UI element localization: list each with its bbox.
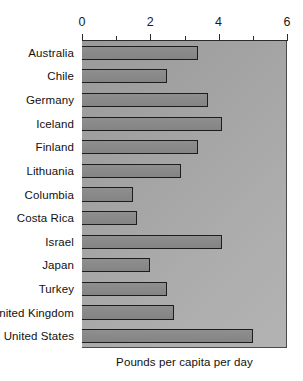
bar-united-kingdom [82, 305, 174, 319]
bar-turkey [82, 282, 167, 296]
bar-row [82, 183, 286, 207]
bar-japan [82, 258, 150, 272]
x-axis-title: Pounds per capita per day [82, 356, 287, 368]
bar-row [82, 159, 286, 183]
bar-row [82, 41, 286, 65]
x-tick-label-4: 4 [215, 15, 222, 29]
bar-row [82, 230, 286, 254]
bar-finland [82, 140, 198, 154]
bar-columbia [82, 187, 133, 201]
x-tick-2 [150, 34, 151, 41]
category-label-japan: Japan [42, 259, 74, 271]
category-label-australia: Australia [28, 47, 74, 59]
bar-costa-rica [82, 211, 137, 225]
category-axis-labels: AustraliaChileGermanyIcelandFinlandLithu… [0, 41, 78, 348]
bar-row [82, 277, 286, 301]
bar-row [82, 135, 286, 159]
bar-rows [82, 41, 286, 347]
bar-chile [82, 69, 167, 83]
x-tick-0 [82, 34, 83, 41]
category-label-united-states: United States [4, 330, 74, 342]
bar-row [82, 206, 286, 230]
category-label-israel: Israel [45, 236, 74, 248]
category-label-germany: Germany [26, 94, 74, 106]
bar-iceland [82, 117, 222, 131]
category-label-costa-rica: Costa Rica [17, 212, 74, 224]
bar-row [82, 253, 286, 277]
x-tick-4 [219, 34, 220, 41]
bar-row [82, 112, 286, 136]
category-label-united-kingdom: United Kingdom [0, 307, 74, 319]
bar-lithuania [82, 164, 181, 178]
category-label-turkey: Turkey [39, 283, 74, 295]
category-label-iceland: Iceland [36, 118, 74, 130]
x-tick-6 [287, 34, 288, 41]
plot-area [82, 41, 287, 348]
bar-united-states [82, 329, 253, 343]
bar-australia [82, 46, 198, 60]
x-tick-label-2: 2 [147, 15, 154, 29]
bar-row [82, 65, 286, 89]
bar-row [82, 301, 286, 325]
bar-israel [82, 235, 222, 249]
bar-row [82, 88, 286, 112]
category-label-columbia: Columbia [25, 189, 74, 201]
category-label-chile: Chile [47, 70, 74, 82]
bar-row [82, 324, 286, 348]
bar-chart: 0246 AustraliaChileGermanyIcelandFinland… [0, 0, 303, 381]
x-tick-label-0: 0 [78, 15, 85, 29]
category-label-lithuania: Lithuania [26, 165, 74, 177]
bar-germany [82, 93, 208, 107]
category-label-finland: Finland [36, 141, 74, 153]
x-tick-label-6: 6 [283, 15, 290, 29]
